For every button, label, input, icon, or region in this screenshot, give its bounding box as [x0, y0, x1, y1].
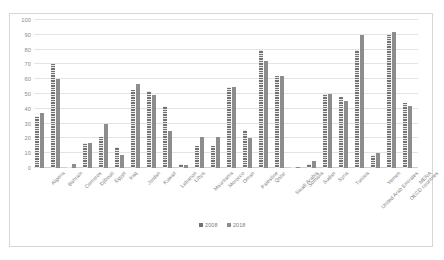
bar — [387, 35, 391, 168]
bar — [296, 167, 300, 168]
bar — [136, 84, 140, 168]
x-axis-tick-label: Tunisia — [354, 170, 370, 186]
y-axis-tick-label: 20 — [25, 135, 31, 141]
y-axis-tick-label: 60 — [25, 76, 31, 82]
bar-group — [386, 20, 402, 168]
x-axis-tick-label: Syria — [337, 170, 350, 183]
bar-group — [178, 20, 194, 168]
bar — [88, 143, 92, 168]
bar — [291, 167, 295, 168]
bar — [259, 50, 263, 168]
bar — [339, 97, 343, 168]
y-axis: 0102030405060708090100 — [9, 20, 31, 168]
bar — [280, 76, 284, 168]
bar — [51, 64, 55, 168]
bar — [328, 94, 332, 168]
bar-group — [130, 20, 146, 168]
legend-swatch-icon — [199, 223, 203, 227]
bar-group — [290, 20, 306, 168]
bar — [115, 147, 119, 168]
bar — [56, 79, 60, 168]
bar — [184, 165, 188, 168]
bar — [216, 137, 220, 168]
bar — [152, 95, 156, 168]
y-axis-tick-label: 100 — [21, 17, 31, 23]
bar — [83, 143, 87, 168]
bar — [232, 87, 236, 168]
bar — [163, 106, 167, 168]
bar-group — [82, 20, 98, 168]
bar — [168, 131, 172, 168]
chart-container: 0102030405060708090100 AlgeriaBahrainCom… — [0, 0, 444, 260]
bars-layer — [34, 20, 418, 168]
bar — [200, 137, 204, 168]
bar — [120, 155, 124, 168]
y-axis-tick-label: 70 — [25, 61, 31, 67]
bar-group — [274, 20, 290, 168]
y-axis-tick-label: 80 — [25, 47, 31, 53]
y-axis-tick-label: 10 — [25, 150, 31, 156]
bar — [392, 32, 396, 168]
bar — [131, 90, 135, 168]
bar — [179, 164, 183, 168]
bar-group — [226, 20, 242, 168]
x-axis-tick-label: Bahrain — [66, 170, 83, 187]
bar — [323, 94, 327, 168]
bar — [67, 167, 71, 168]
y-axis-tick-label: 30 — [25, 121, 31, 127]
bar — [344, 101, 348, 168]
bar-group — [370, 20, 386, 168]
y-axis-tick-label: 40 — [25, 106, 31, 112]
x-axis-tick-label: Egypt — [113, 170, 127, 184]
x-axis-tick-label: Kuwait — [162, 170, 177, 185]
bar — [376, 153, 380, 168]
bar — [403, 103, 407, 168]
bar — [227, 87, 231, 168]
bar — [312, 161, 316, 168]
x-axis-labels: AlgeriaBahrainComorosDjiboutiEgyptIraqJo… — [34, 170, 418, 218]
y-axis-tick-label: 50 — [25, 91, 31, 97]
bar — [264, 61, 268, 168]
x-axis-tick-label: Sudan — [321, 170, 336, 185]
bar — [40, 113, 44, 168]
bar-group — [322, 20, 338, 168]
bar-group — [34, 20, 50, 168]
bar — [211, 146, 215, 168]
chart-legend: 20082018 — [0, 222, 444, 228]
bar — [104, 124, 108, 168]
x-axis-tick-label: Jordan — [146, 170, 162, 186]
bar-group — [66, 20, 82, 168]
bar — [360, 35, 364, 168]
bar-group — [402, 20, 418, 168]
bar-group — [114, 20, 130, 168]
bar-group — [98, 20, 114, 168]
y-axis-tick-label: 0 — [28, 165, 31, 171]
bar — [147, 91, 151, 168]
bar — [248, 138, 252, 168]
bar — [371, 155, 375, 168]
bar — [72, 164, 76, 168]
bar — [99, 137, 103, 168]
legend-swatch-icon — [227, 223, 231, 227]
legend-item[interactable]: 2008 — [199, 222, 218, 228]
bar — [408, 106, 412, 168]
bar-group — [162, 20, 178, 168]
bar-group — [258, 20, 274, 168]
bar — [195, 146, 199, 168]
bar-group — [354, 20, 370, 168]
bar-group — [210, 20, 226, 168]
bar — [307, 164, 311, 168]
plot-area — [34, 20, 418, 168]
bar-group — [50, 20, 66, 168]
bar — [243, 130, 247, 168]
bar-group — [306, 20, 322, 168]
x-axis-tick-label: Iraq — [128, 170, 139, 181]
bar — [35, 116, 39, 168]
legend-label: 2008 — [205, 222, 217, 228]
bar-group — [338, 20, 354, 168]
x-axis-tick-label: Algeria — [50, 170, 66, 186]
legend-label: 2018 — [233, 222, 245, 228]
x-axis-tick-label: Yemen — [386, 170, 402, 186]
legend-item[interactable]: 2018 — [227, 222, 246, 228]
bar-group — [146, 20, 162, 168]
